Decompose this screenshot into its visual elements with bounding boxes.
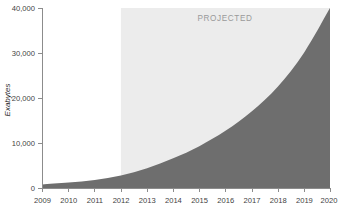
x-tick-label-2018: 2018	[270, 196, 287, 205]
y-axis-title: Exabytes	[3, 84, 12, 117]
x-tick-label-2016: 2016	[217, 196, 234, 205]
projected-label: PROJECTED	[198, 14, 253, 23]
x-tick-label-2011: 2011	[87, 196, 103, 205]
x-tick-label-2017: 2017	[244, 196, 261, 205]
x-tick-label-2014: 2014	[165, 196, 182, 205]
x-tick-label-2012: 2012	[113, 196, 130, 205]
chart-canvas: PROJECTED 40,000 30,000 20,000 10,000 0 …	[0, 0, 341, 217]
x-tick-label-2010: 2010	[60, 196, 77, 205]
x-tick-label-2020: 2020	[321, 196, 338, 205]
y-tick-label-40000: 40,000	[12, 4, 35, 13]
x-tick-label-2019: 2019	[296, 196, 313, 205]
y-tick-label-30000: 30,000	[12, 49, 35, 58]
y-tick-label-0: 0	[31, 184, 35, 193]
x-tick-label-2013: 2013	[139, 196, 156, 205]
exabytes-growth-chart: PROJECTED 40,000 30,000 20,000 10,000 0 …	[0, 0, 341, 217]
y-tick-label-20000: 20,000	[12, 94, 35, 103]
y-tick-label-10000: 10,000	[12, 139, 35, 148]
x-tick-label-2009: 2009	[34, 196, 51, 205]
x-tick-label-2015: 2015	[191, 196, 208, 205]
